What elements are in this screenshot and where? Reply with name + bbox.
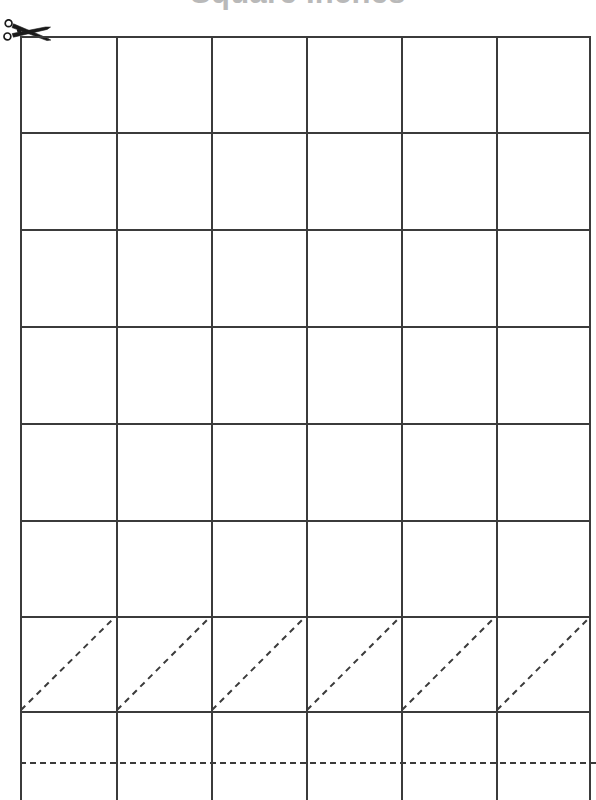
diagonal-dashed-cell bbox=[20, 616, 116, 711]
diagonal-dashed-cell bbox=[116, 616, 211, 711]
diagonal-dashed-cell bbox=[306, 616, 401, 711]
diagonal-dashed-cell bbox=[211, 616, 306, 711]
grid-horizontal-line bbox=[20, 423, 591, 425]
grid-horizontal-line bbox=[20, 711, 591, 713]
grid-horizontal-line bbox=[20, 132, 591, 134]
diagonal-dashed-cell bbox=[401, 616, 496, 711]
worksheet-page: Square Inches bbox=[0, 0, 596, 800]
cut-line-dashed bbox=[20, 762, 596, 764]
grid-horizontal-line bbox=[20, 520, 591, 522]
grid-horizontal-line bbox=[20, 229, 591, 231]
square-inches-grid bbox=[0, 0, 596, 800]
diagonal-dashed-cell bbox=[496, 616, 591, 711]
grid-horizontal-line bbox=[20, 36, 591, 38]
grid-horizontal-line bbox=[20, 326, 591, 328]
